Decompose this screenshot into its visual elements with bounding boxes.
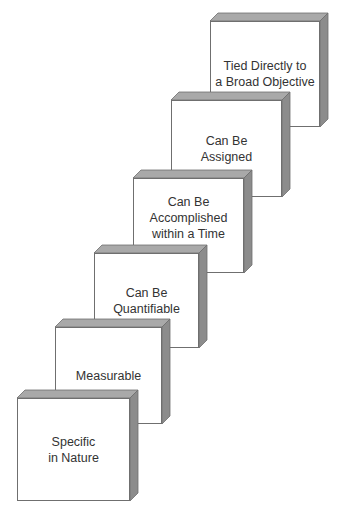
step-label: Measurable — [76, 368, 141, 384]
box-face: Specific in Nature — [17, 398, 130, 501]
step-box-1: Specific in Nature — [17, 390, 138, 501]
step-label: Can Be Quantifiable — [113, 285, 180, 317]
step-label: Specific in Nature — [48, 434, 99, 466]
step-label: Tied Directly to a Broad Objective — [215, 58, 314, 90]
step-label: Can Be Assigned — [201, 133, 252, 165]
